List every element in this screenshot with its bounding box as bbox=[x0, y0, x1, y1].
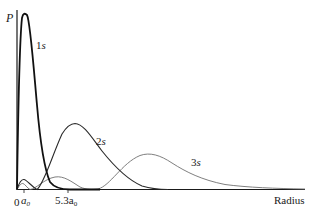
curve-label-1s-letter: s bbox=[42, 39, 46, 51]
curve-label-2s: 2s bbox=[96, 136, 106, 147]
curve-label-1s: 1s bbox=[36, 40, 46, 51]
x-axis-label: Radius bbox=[274, 195, 305, 206]
curve-1s bbox=[17, 14, 100, 190]
curve-label-3s-letter: s bbox=[197, 156, 201, 168]
tick-label-0: 0 bbox=[14, 197, 20, 208]
curve-3s bbox=[17, 154, 305, 189]
tick-label-a0-sub: 0 bbox=[27, 200, 31, 208]
tick-label-5.3a0-sub: 0 bbox=[74, 200, 78, 208]
tick-label-5.3a0-main: 5.3a bbox=[55, 194, 74, 206]
tick-label-5.3a0: 5.3a0 bbox=[55, 195, 77, 210]
curve-label-2s-letter: s bbox=[102, 135, 106, 147]
curve-label-3s: 3s bbox=[191, 157, 201, 168]
radial-probability-chart bbox=[0, 0, 315, 216]
y-axis-label: P bbox=[6, 13, 13, 24]
tick-label-a0: a0 bbox=[21, 195, 30, 210]
